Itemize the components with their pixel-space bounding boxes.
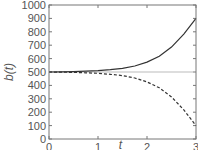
y-tick-label: 200 [28,106,46,118]
y-tick-label: 900 [28,12,46,24]
y-tick-label: 600 [28,53,46,65]
y-tick-label: 300 [28,93,46,105]
chart-container: 01002003004005006007008009001000 0123 b(… [0,0,198,150]
y-axis-label: b(t) [2,63,16,81]
y-tick-label: 500 [28,66,46,78]
x-tick-label: 1 [95,141,101,150]
x-tick-label: 2 [144,141,150,150]
y-tick-label: 400 [28,79,46,91]
upper-curve [49,18,196,72]
x-tick-label: 0 [46,141,52,150]
y-tick-label: 1000 [22,0,46,11]
lower-curve [49,72,196,126]
x-axis-label: t [119,138,123,150]
y-tick-label: 100 [28,120,46,132]
x-axis-ticks: 0123 [46,5,198,150]
y-tick-label: 800 [28,26,46,38]
line-chart: 01002003004005006007008009001000 0123 b(… [0,0,198,150]
y-tick-label: 700 [28,39,46,51]
x-tick-label: 3 [193,141,198,150]
